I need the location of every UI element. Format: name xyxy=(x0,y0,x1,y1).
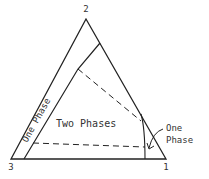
two-phases-label: Two Phases xyxy=(56,118,116,129)
vertex-label-bottom-left: 3 xyxy=(8,162,13,172)
outer-triangle xyxy=(11,19,166,159)
left-phase-boundary xyxy=(24,43,100,159)
tie-line-lower xyxy=(33,143,145,147)
vertex-label-top: 2 xyxy=(83,4,88,14)
ternary-diagram: 2 3 1 Two Phases One Phase One Phase xyxy=(0,0,209,179)
vertex-label-bottom-right: 1 xyxy=(163,162,168,172)
right-one-phase-label-line1: One xyxy=(166,123,182,133)
right-one-phase-label-line2: Phase xyxy=(166,135,193,145)
tie-line-upper xyxy=(78,69,141,121)
